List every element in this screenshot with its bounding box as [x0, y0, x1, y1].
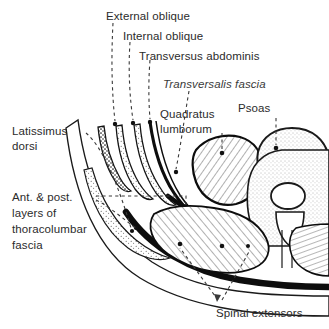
spinal-extensors-anchor-dot-right — [220, 244, 225, 249]
label-quadratus-lumborum-line1: Quadratus — [160, 107, 215, 121]
label-thoracolumbar-fascia-line2: layers of — [12, 206, 56, 220]
spinal-extensors-anchor-dot-medial — [246, 244, 250, 248]
leader-external-oblique — [112, 23, 115, 121]
label-thoracolumbar-fascia-line4: fascia — [12, 238, 43, 252]
leader-transversus-abdominis — [149, 60, 150, 119]
quadratus-lumborum-anchor-dot — [220, 151, 225, 156]
leader-internal-oblique — [129, 42, 133, 120]
erector-spinae-right — [290, 224, 329, 276]
anatomical-figure: External oblique Internal oblique Transv… — [0, 0, 329, 329]
latissimus-dorsi-anchor-dot — [130, 229, 134, 233]
spinal-extensors-anchor-dot-left — [178, 242, 183, 247]
label-quadratus-lumborum-line2: lumborum — [160, 122, 212, 136]
label-psoas: Psoas — [238, 101, 270, 115]
spinal-canal — [271, 183, 305, 209]
label-transversalis-fascia: Transversalis fascia — [163, 77, 266, 91]
label-latissimus-dorsi-line2: dorsi — [12, 139, 37, 153]
label-internal-oblique: Internal oblique — [123, 29, 203, 43]
psoas-anchor-dot — [274, 146, 279, 151]
transversalis-fascia-anchor-dot — [174, 170, 178, 174]
label-external-oblique: External oblique — [106, 9, 190, 23]
label-spinal-extensors: Spinal extensors — [216, 306, 303, 320]
label-latissimus-dorsi-line1: Latissimus — [12, 124, 67, 138]
label-transversus-abdominis: Transversus abdominis — [139, 49, 260, 63]
label-thoracolumbar-fascia-line1: Ant. & post. — [12, 190, 73, 204]
label-thoracolumbar-fascia-line3: thoracolumbar — [12, 222, 87, 236]
